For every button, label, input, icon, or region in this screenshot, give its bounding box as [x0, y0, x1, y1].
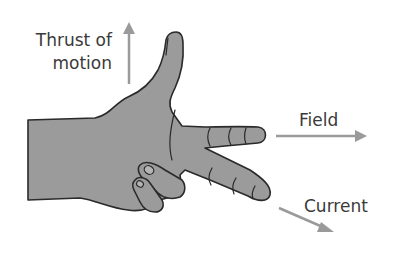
thrust-label-line2: motion — [52, 53, 112, 73]
left-hand-rule-diagram: Thrust of motion Field Current — [0, 0, 395, 255]
thrust-arrow — [123, 22, 135, 84]
field-arrow — [276, 130, 367, 142]
current-label: Current — [304, 196, 368, 216]
field-label: Field — [299, 110, 338, 130]
thrust-label-line1: Thrust of — [35, 30, 113, 50]
